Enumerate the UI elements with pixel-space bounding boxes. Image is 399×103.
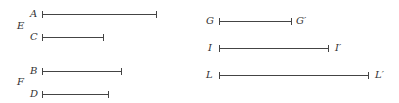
label-l-prime: L′	[375, 70, 384, 80]
group-label-f: F	[17, 77, 24, 87]
segment-d	[42, 94, 109, 95]
segment-c	[42, 37, 104, 38]
segment-gg	[219, 21, 292, 22]
label-i-prime: I′	[335, 43, 341, 53]
label-a: A	[30, 9, 37, 19]
segment-b	[42, 71, 122, 72]
segment-ll	[219, 75, 369, 76]
label-g-prime: G′	[296, 16, 306, 26]
group-label-e: E	[17, 21, 24, 31]
label-b: B	[30, 66, 37, 76]
label-l: L	[206, 70, 213, 80]
label-g: G	[206, 16, 214, 26]
label-i: I	[208, 43, 212, 53]
segment-ii	[219, 48, 329, 49]
segment-a	[42, 14, 157, 15]
label-d: D	[30, 89, 38, 99]
label-c: C	[30, 32, 38, 42]
